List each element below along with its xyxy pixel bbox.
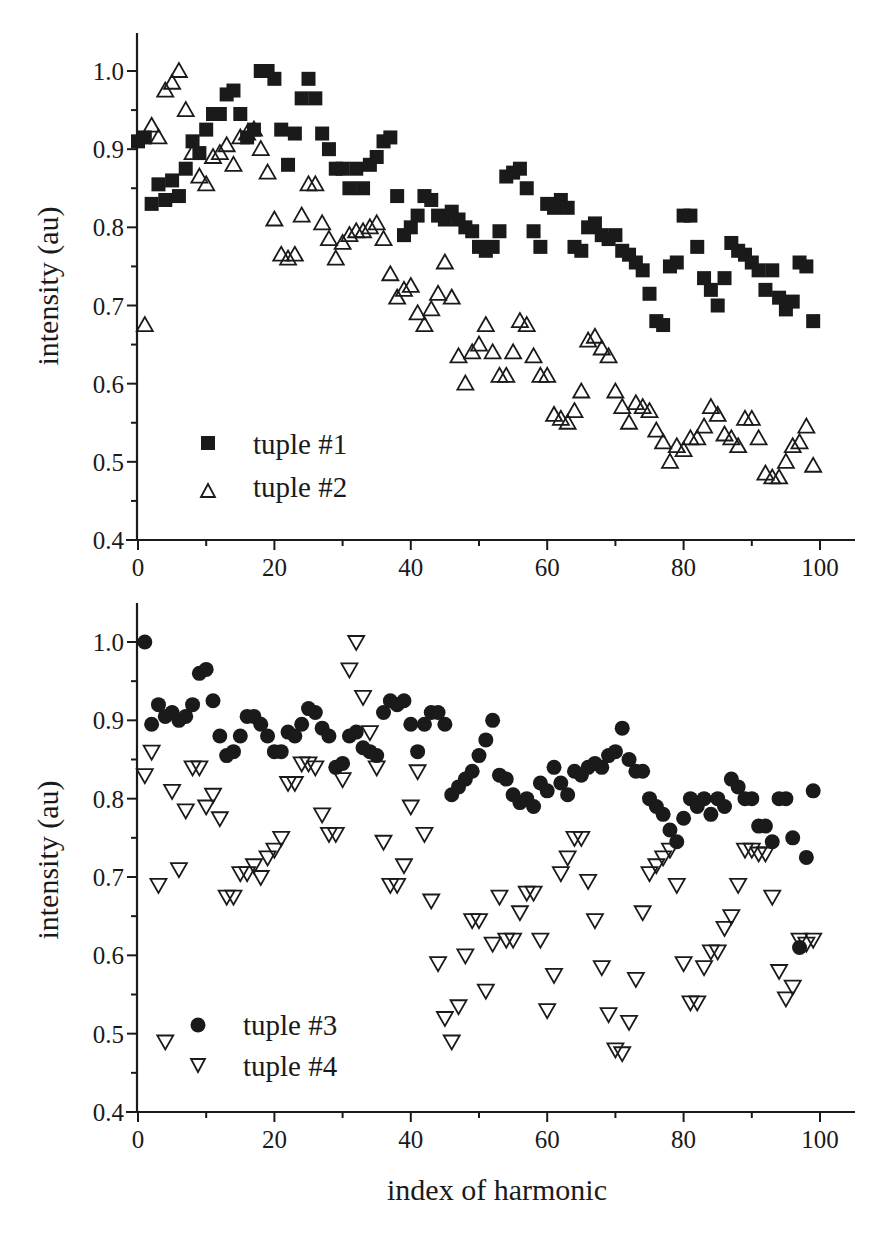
data-point (213, 107, 227, 121)
legend-label-tuple-1: tuple #1 (253, 428, 347, 460)
data-point (191, 169, 207, 183)
data-point (765, 263, 779, 277)
data-point (370, 150, 384, 164)
data-point (799, 259, 813, 273)
data-point (144, 118, 160, 132)
x-tick-label: 0 (132, 554, 145, 581)
data-point (457, 949, 473, 963)
data-point (437, 255, 453, 269)
data-point (676, 811, 691, 826)
data-point (539, 1004, 555, 1018)
x-tick-label: 100 (801, 554, 839, 581)
data-point (172, 189, 186, 203)
data-point (642, 867, 658, 881)
y-tick-label: 0.9 (93, 136, 124, 163)
y-tick-label: 0.6 (93, 942, 124, 969)
data-point (758, 819, 773, 834)
data-point (744, 791, 759, 806)
chart-canvas: 0204060801000.40.50.60.70.80.91.0 intens… (0, 0, 886, 1239)
x-tick-label: 100 (801, 1126, 839, 1153)
data-point (764, 891, 780, 905)
top-legend: tuple #1 tuple #2 (201, 428, 347, 503)
data-point (376, 836, 392, 850)
data-point (321, 231, 337, 245)
data-point (328, 251, 344, 265)
data-point (560, 787, 575, 802)
data-point (566, 403, 582, 417)
data-point (178, 102, 194, 116)
data-point (492, 224, 506, 238)
data-point (410, 744, 425, 759)
data-point (410, 305, 426, 319)
data-point (137, 635, 152, 650)
data-point (718, 271, 732, 285)
top-y-axis-label: intensity (au) (31, 206, 65, 365)
data-point (608, 744, 623, 759)
data-point (601, 1008, 617, 1022)
data-point (478, 732, 493, 747)
y-tick-label: 0.7 (93, 293, 124, 320)
data-point (157, 1036, 173, 1050)
figure: 0204060801000.40.50.60.70.80.91.0 intens… (0, 0, 886, 1239)
y-tick-label: 1.0 (93, 58, 124, 85)
data-point (751, 430, 767, 444)
data-point (703, 807, 718, 822)
data-point (778, 454, 794, 468)
y-tick-label: 0.5 (93, 1021, 124, 1048)
data-point (226, 84, 240, 98)
x-tick-label: 80 (671, 554, 696, 581)
data-point (444, 1036, 460, 1050)
data-point (621, 415, 637, 429)
data-point (199, 123, 213, 137)
y-tick-label: 0.9 (93, 707, 124, 734)
data-point (158, 193, 172, 207)
data-point (383, 130, 397, 144)
data-point (390, 189, 404, 203)
data-point (643, 287, 657, 301)
legend-label-tuple-2: tuple #2 (253, 471, 347, 503)
data-point (546, 969, 562, 983)
y-tick-label: 0.7 (93, 864, 124, 891)
data-point (690, 240, 704, 254)
data-point (580, 875, 596, 889)
data-point (308, 705, 323, 720)
data-point (526, 348, 542, 362)
bottom-ticks: 0204060801000.40.50.60.70.80.91.0 (93, 629, 839, 1153)
data-point (486, 240, 500, 254)
data-point (444, 290, 460, 304)
data-point (798, 419, 814, 433)
data-point (553, 867, 569, 881)
data-point (403, 717, 418, 732)
x-tick-label: 20 (262, 1126, 287, 1153)
data-point (396, 693, 411, 708)
data-point (226, 744, 241, 759)
data-point (274, 744, 289, 759)
data-point (526, 799, 541, 814)
data-point (594, 961, 610, 975)
data-point (648, 423, 664, 437)
data-point (150, 879, 166, 893)
data-point (635, 906, 651, 920)
data-point (533, 240, 547, 254)
data-point (315, 127, 329, 141)
data-point (717, 922, 733, 936)
data-point (635, 764, 650, 779)
data-point (615, 721, 630, 736)
legend-marker-open-triangle-up-icon (201, 484, 215, 497)
data-point (410, 765, 426, 779)
data-point (561, 201, 575, 215)
data-point (145, 197, 159, 211)
data-point (144, 717, 159, 732)
data-point (587, 914, 603, 928)
data-point (294, 208, 310, 222)
data-point (430, 957, 446, 971)
data-point (267, 72, 281, 86)
data-point (786, 295, 800, 309)
data-point (472, 748, 487, 763)
data-point (348, 636, 364, 650)
y-tick-label: 0.8 (93, 214, 124, 241)
y-tick-label: 0.8 (93, 786, 124, 813)
data-point (165, 173, 179, 187)
data-point (451, 348, 467, 362)
data-point (266, 212, 282, 226)
